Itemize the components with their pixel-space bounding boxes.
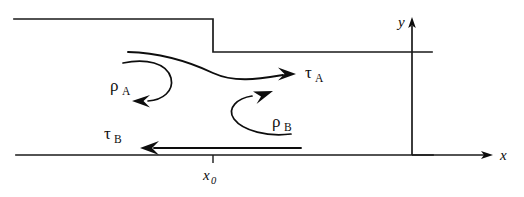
shear-layer-curve-path: [128, 52, 283, 79]
tau-b-subscript: B: [114, 133, 122, 145]
label-tau-b: τ B: [104, 124, 122, 145]
y-axis-label: y: [396, 14, 405, 30]
x-origin-symbol: x: [202, 167, 210, 183]
label-rho-b: ρ B: [272, 112, 292, 133]
rho-b-subscript: B: [284, 121, 292, 133]
label-x-origin: x 0: [202, 167, 217, 186]
rho-a-subscript: A: [122, 85, 131, 97]
shear-layer-streamline-a: [128, 52, 296, 81]
recirculation-b-curve-path: [231, 96, 291, 135]
x-axis: [412, 151, 493, 159]
tau-b-symbol: τ: [104, 124, 111, 143]
y-axis: [408, 17, 416, 155]
label-rho-a: ρ A: [110, 76, 131, 97]
step-flow-diagram: ρ A ρ B τ A τ B y x x 0: [0, 0, 524, 197]
recirculation-curl-b: [231, 91, 291, 135]
tau-a-subscript: A: [315, 72, 324, 84]
label-y-axis: y: [396, 14, 405, 30]
diagram-canvas: ρ A ρ B τ A τ B y x x 0: [0, 0, 524, 197]
tau-a-symbol: τ: [305, 63, 312, 82]
upper-wall-with-step: [14, 19, 432, 52]
label-x-axis: x: [499, 147, 507, 163]
recirculation-b-arrowhead: [253, 91, 273, 104]
label-tau-a: τ A: [305, 63, 324, 84]
rho-a-symbol: ρ: [110, 76, 118, 95]
shear-layer-arrowhead: [278, 68, 296, 81]
rho-b-symbol: ρ: [272, 112, 280, 131]
x-origin-subscript: 0: [211, 175, 217, 186]
wall-shear-arrow-b: [140, 141, 301, 155]
x-axis-label: x: [499, 147, 507, 163]
upper-wall-path: [14, 19, 432, 52]
